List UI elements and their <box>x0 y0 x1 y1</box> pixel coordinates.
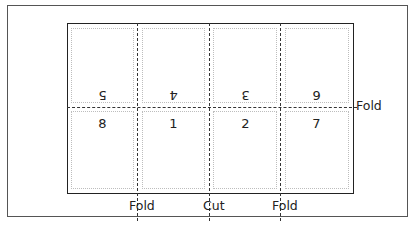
page-number: 2 <box>210 117 281 131</box>
page-number: 4 <box>138 88 209 102</box>
page-number: 3 <box>210 88 281 102</box>
page-number: 1 <box>138 117 209 131</box>
fold-label-right: Fold <box>272 199 298 213</box>
page-number: 5 <box>67 88 138 102</box>
page-number: 7 <box>281 117 352 131</box>
fold-label-left: Fold <box>129 199 155 213</box>
page-number: 8 <box>67 117 138 131</box>
page-number: 6 <box>281 88 352 102</box>
fold-label-horizontal: Fold <box>356 99 382 113</box>
cut-label: Cut <box>203 199 225 213</box>
fold-line-horizontal <box>67 107 357 108</box>
